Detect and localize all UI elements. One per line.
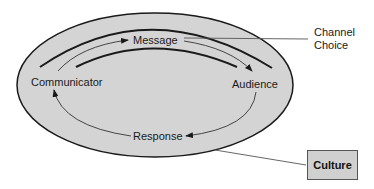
communicator-label: Communicator [31, 76, 103, 88]
channel-choice-label-line1: Channel [314, 26, 355, 38]
culture-box: Culture [307, 150, 358, 180]
culture-label: Culture [313, 159, 352, 171]
culture-leader-line [215, 150, 306, 165]
channel-choice-label-line2: Choice [314, 39, 348, 51]
response-label: Response [133, 130, 183, 142]
message-label: Message [133, 34, 178, 46]
audience-label: Audience [232, 78, 278, 90]
